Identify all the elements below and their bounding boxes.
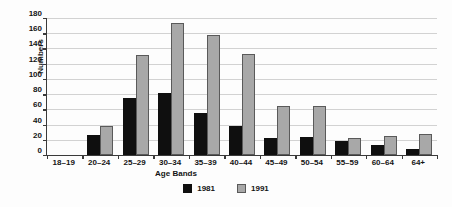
y-tick-label: 140 <box>18 40 42 48</box>
band-group <box>82 18 117 155</box>
legend-swatch-icon <box>237 184 246 193</box>
bar-1981-20–24 <box>87 135 100 155</box>
y-tick-label: 180 <box>18 10 42 18</box>
legend-swatch-icon <box>183 184 192 193</box>
bar-1991-35–39 <box>207 35 220 155</box>
bar-1981-25–29 <box>123 98 136 155</box>
bars-layer <box>47 18 437 155</box>
y-tick-label: 20 <box>18 132 42 140</box>
x-tick-label: 50–54 <box>294 158 329 167</box>
bar-1991-45–49 <box>277 106 290 155</box>
y-tick-label: 40 <box>18 117 42 125</box>
x-tick-label: 25–29 <box>117 158 152 167</box>
bar-1991-60–64 <box>384 136 397 155</box>
bar-1991-64+ <box>419 134 432 155</box>
x-tick-label: 20–24 <box>81 158 116 167</box>
band-group <box>366 18 401 155</box>
band-group <box>295 18 330 155</box>
x-tick-label: 64+ <box>401 158 436 167</box>
x-tick-label: 35–39 <box>188 158 223 167</box>
bar-1991-30–34 <box>171 23 184 155</box>
legend-label: 1991 <box>251 184 269 193</box>
x-tick-label: 45–49 <box>259 158 294 167</box>
x-tick-label: 30–34 <box>152 158 187 167</box>
x-tick-label: 60–64 <box>365 158 400 167</box>
bar-1991-40–44 <box>242 54 255 155</box>
band-group <box>118 18 153 155</box>
band-group <box>47 18 82 155</box>
y-tick-label: 80 <box>18 86 42 94</box>
y-tick-label: 0 <box>18 147 42 155</box>
bar-1981-40–44 <box>229 126 242 155</box>
bar-chart-figure: Numbers 020406080100120140160180 18–1920… <box>0 0 452 207</box>
y-tick-label: 160 <box>18 25 42 33</box>
bar-1981-55–59 <box>335 141 348 155</box>
x-axis-title: Age Bands <box>46 169 306 178</box>
bar-1991-25–29 <box>136 55 149 155</box>
y-tick-label: 60 <box>18 101 42 109</box>
plot-area <box>46 18 437 156</box>
bar-1991-20–24 <box>100 126 113 155</box>
x-tick-label: 40–44 <box>223 158 258 167</box>
legend-label: 1981 <box>197 184 215 193</box>
bar-1981-35–39 <box>194 113 207 155</box>
bar-1991-55–59 <box>348 138 361 155</box>
band-group <box>189 18 224 155</box>
x-tick-label: 18–19 <box>46 158 81 167</box>
legend-entry-1981[interactable]: 1981 <box>183 184 215 193</box>
y-tick-label: 100 <box>18 71 42 79</box>
bar-1981-50–54 <box>300 137 313 155</box>
bar-1991-50–54 <box>313 106 326 155</box>
band-group <box>260 18 295 155</box>
chart-legend: 19811991 <box>0 184 452 193</box>
bar-1981-64+ <box>406 149 419 155</box>
band-group <box>331 18 366 155</box>
bar-1981-30–34 <box>158 93 171 155</box>
x-tick-label: 55–59 <box>330 158 365 167</box>
band-group <box>153 18 188 155</box>
legend-entry-1991[interactable]: 1991 <box>237 184 269 193</box>
bar-1981-60–64 <box>371 145 384 155</box>
band-group <box>224 18 259 155</box>
y-tick-label: 120 <box>18 56 42 64</box>
band-group <box>402 18 437 155</box>
y-axis-tick-labels: 020406080100120140160180 <box>18 14 42 156</box>
bar-1981-45–49 <box>264 138 277 156</box>
